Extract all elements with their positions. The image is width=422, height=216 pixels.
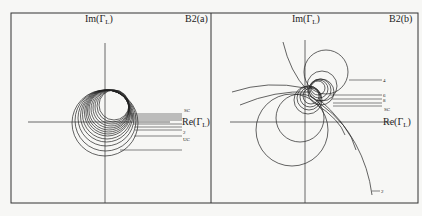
figure-b2: Im(ΓL) B2(a) SC Re(ΓL) 2 UC — [0, 0, 422, 216]
panel-b-label-8: 8 — [383, 98, 386, 103]
figure-svg: Im(ΓL) B2(a) SC Re(ΓL) 2 UC — [0, 0, 422, 216]
panel-a-label-uc: UC — [183, 137, 191, 142]
panel-b-title: B2(b) — [389, 13, 412, 25]
panel-a: Im(ΓL) B2(a) SC Re(ΓL) 2 UC — [28, 13, 210, 203]
panel-a-imag-label: Im(ΓL) — [85, 13, 113, 26]
panel-b: Im(ΓL) B2(b) 4 6 8 SC Re(ΓL) 2 — [230, 13, 412, 203]
panel-a-label-2: 2 — [183, 130, 186, 135]
panel-b-real-label: Re(ΓL) — [383, 116, 411, 129]
panel-a-title: B2(a) — [185, 13, 208, 25]
figure-frame — [11, 13, 418, 203]
panel-a-label-sc: SC — [184, 108, 191, 113]
panel-a-real-label: Re(ΓL) — [182, 116, 210, 129]
panel-b-label-sc: SC — [384, 107, 391, 112]
panel-b-label-4: 4 — [383, 78, 386, 83]
panel-b-circle-family — [232, 42, 372, 195]
panel-b-label-2: 2 — [381, 189, 384, 194]
panel-b-imag-label: Im(ΓL) — [292, 13, 320, 26]
